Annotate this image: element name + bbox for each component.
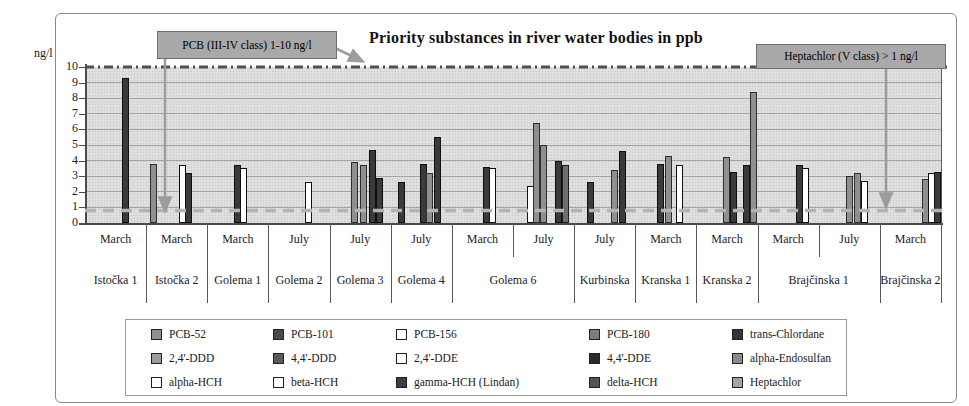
y-tick-mark [79,67,85,68]
y-tick-mark [79,161,85,162]
y-tick-label: 7 [52,106,78,121]
month-label: July [268,223,329,255]
bar [489,168,496,223]
bar [398,182,405,223]
plot-area [85,67,941,223]
y-tick-label: 4 [52,153,78,168]
column-separator [635,223,636,303]
legend-label: PCB-52 [169,328,206,340]
river-label: Kurbinska [574,255,635,305]
bar [533,123,540,223]
month-label: July [391,223,452,255]
legend-swatch-icon [151,377,162,388]
bar [360,165,367,223]
legend-item: 4,4'-DDD [273,352,396,364]
river-label: Golema 2 [268,255,329,305]
bar [376,178,383,223]
legend-item: 4,4'-DDE [589,352,732,364]
column-separator [696,223,697,303]
legend-label: trans-Chlordane [750,328,824,340]
column-separator [758,223,759,303]
legend-label: alpha-HCH [169,376,222,388]
column-separator [452,223,453,303]
legend-item: trans-Chlordane [732,328,846,340]
bar [802,168,809,223]
y-tick-mark [79,129,85,130]
river-label: Brajčinska 1 [758,255,880,305]
bar [676,165,683,223]
bar [730,172,737,223]
bar [587,182,594,223]
river-label: Kranska 1 [635,255,696,305]
gridline [85,160,941,161]
column-separator [146,223,147,303]
legend-item: 2,4'-DDE [396,352,589,364]
legend-label: delta-HCH [607,376,657,388]
y-tick-label: 5 [52,137,78,152]
legend-item: PCB-156 [396,328,589,340]
month-label: March [880,223,941,255]
y-tick-label: 1 [52,199,78,214]
bar [562,165,569,223]
column-separator [574,223,575,303]
river-label: Kranska 2 [696,255,757,305]
bar [369,150,376,223]
annotation-heptachlor-limit: Heptachlor (V class) > 1 ng/l [756,44,946,69]
y-tick-label: 9 [52,75,78,90]
chart-figure: ng/l Priority substances in river water … [0,0,969,406]
month-label: July [513,223,574,255]
legend-item: Heptachlor [732,376,846,388]
y-tick-mark [79,145,85,146]
bar [540,145,547,223]
river-label: Golema 4 [391,255,452,305]
bar [351,162,358,223]
bar [426,173,433,223]
legend-swatch-icon [732,353,743,364]
legend-label: PCB-101 [291,328,334,340]
column-separator [207,223,208,303]
legend-label: PCB-156 [414,328,457,340]
month-label: March [452,223,513,255]
bar [185,173,192,223]
chart-title: Priority substances in river water bodie… [330,29,742,47]
legend-swatch-icon [273,353,284,364]
y-tick-mark [79,83,85,84]
river-label: Istočka 1 [85,255,146,305]
bar [555,161,562,223]
column-separator [941,223,942,303]
river-label: Brajčinska 2 [880,255,941,305]
column-separator [819,223,820,257]
gridline [85,145,941,146]
y-tick-mark [79,176,85,177]
legend-swatch-icon [589,353,600,364]
month-label: March [635,223,696,255]
month-label: March [85,223,146,255]
bar [240,168,247,223]
legend-swatch-icon [273,377,284,388]
legend-swatch-icon [151,353,162,364]
legend-swatch-icon [273,329,284,340]
legend-label: 2,4'-DDD [169,352,214,364]
legend-item: alpha-Endosulfan [732,352,846,364]
legend: PCB-52PCB-101PCB-156PCB-180trans-Chlorda… [125,319,847,396]
legend-item: alpha-HCH [151,376,273,388]
legend-swatch-icon [151,329,162,340]
legend-swatch-icon [396,377,407,388]
gridline [85,82,941,83]
bar [846,176,853,223]
gridline [85,191,941,192]
bar [305,182,312,223]
legend-label: alpha-Endosulfan [750,352,831,364]
y-tick-label: 8 [52,90,78,105]
legend-item: beta-HCH [273,376,396,388]
bar [750,92,757,223]
legend-label: 4,4'-DDE [607,352,651,364]
y-axis-unit-label: ng/l [34,46,53,61]
gridline [85,176,941,177]
bar [150,164,157,223]
legend-item: delta-HCH [589,376,732,388]
month-label: July [330,223,391,255]
y-tick-mark [79,98,85,99]
month-label: July [574,223,635,255]
month-label: March [758,223,819,255]
